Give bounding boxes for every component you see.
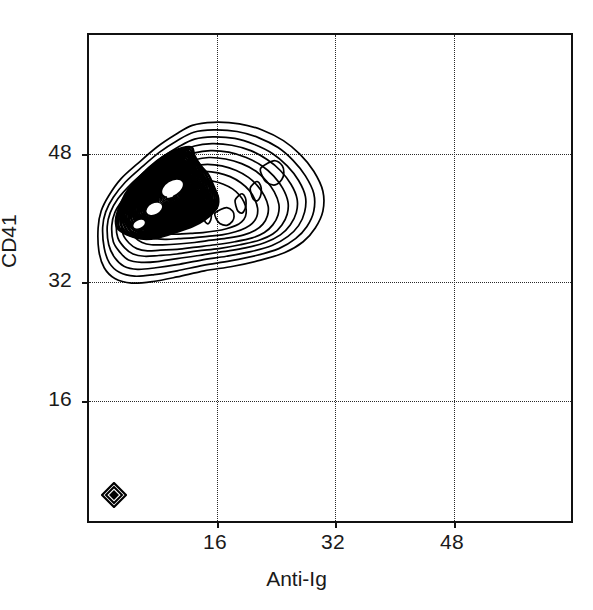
- island-teardrop-mid: [250, 181, 261, 200]
- core-ring-8: [129, 158, 209, 229]
- gridline-vertical-48: [454, 35, 455, 521]
- ticklabel-x-48: 48: [440, 531, 464, 552]
- core-ring-10: [132, 161, 205, 226]
- core-ring-32: [164, 190, 175, 200]
- core-ring-19: [144, 173, 192, 216]
- core-ring-31: [163, 189, 177, 201]
- core-ring-6: [124, 155, 209, 232]
- contour-level-5: [116, 151, 288, 257]
- island-sliver: [203, 208, 211, 224]
- core-ring-17: [142, 170, 196, 218]
- contour-level-3: [107, 137, 306, 270]
- core-ring-24: [153, 180, 187, 210]
- core-ring-25: [154, 181, 185, 209]
- core-ring-7: [127, 156, 209, 230]
- contour-interior-islands: [203, 161, 284, 226]
- core-ring-28: [158, 185, 180, 205]
- tick-x-32: [335, 521, 337, 528]
- ticklabel-y-48: 48: [10, 141, 72, 162]
- figure-container: 48 32 16 16 32 48 CD41 Anti-Ig: [0, 0, 593, 610]
- ticklabel-x-32: 32: [321, 531, 345, 552]
- core-ring-11: [132, 163, 203, 226]
- core-ring-26: [155, 182, 183, 207]
- tick-x-16: [217, 521, 219, 528]
- core-ring-14: [137, 166, 199, 222]
- gridline-horizontal-32: [89, 282, 571, 283]
- core-ring-33: [166, 191, 174, 198]
- core-ring-23: [151, 178, 188, 211]
- core-ring-16: [141, 169, 197, 219]
- core-ring-27: [157, 183, 182, 206]
- core-ring-2: [120, 150, 216, 236]
- gridline-horizontal-48: [89, 154, 571, 155]
- contour-saturated-core: [116, 147, 218, 239]
- ticklabel-x-16: 16: [203, 531, 227, 552]
- core-ring-12: [134, 164, 202, 225]
- core-ring-3: [121, 152, 214, 235]
- gridline-vertical-32: [335, 35, 336, 521]
- core-ring-4: [122, 153, 213, 234]
- core-ring-0: [116, 147, 218, 239]
- contour-level-2: [103, 130, 315, 276]
- core-ring-20: [146, 174, 191, 215]
- contour-level-7: [128, 164, 268, 245]
- core-gap-upper: [159, 176, 186, 200]
- ticklabel-y-16: 16: [10, 388, 72, 409]
- core-ring-15: [139, 167, 199, 220]
- tick-y-48: [82, 154, 89, 156]
- tick-y-16: [82, 401, 89, 403]
- diamond-marker: [101, 482, 127, 508]
- axis-label-y: CD41: [0, 214, 19, 268]
- core-ring-18: [143, 172, 194, 217]
- gridline-vertical-16: [217, 35, 218, 521]
- core-ring-1: [118, 148, 218, 237]
- island-diamond-upper: [260, 161, 284, 185]
- ticklabel-y-32: 32: [10, 269, 72, 290]
- contour-level-4: [112, 144, 298, 263]
- contour-level-1: [98, 122, 324, 283]
- core-ring-30: [162, 187, 179, 202]
- core-gap-lower: [132, 218, 146, 230]
- contour-plot: [89, 35, 575, 525]
- contour-level-9: [144, 180, 247, 234]
- core-ring-13: [135, 165, 200, 224]
- tick-y-32: [82, 282, 89, 284]
- island-teardrop-lower: [235, 194, 246, 213]
- core-ring-21: [148, 175, 190, 213]
- core-ring-29: [160, 186, 180, 203]
- plot-area: [87, 33, 573, 523]
- tick-x-48: [454, 521, 456, 528]
- core-ring-22: [150, 177, 190, 212]
- contour-outer-levels: [98, 122, 324, 283]
- core-gap-mid: [144, 200, 164, 217]
- core-ring-9: [131, 159, 207, 227]
- core-ring-5: [123, 154, 211, 233]
- axis-label-x: Anti-Ig: [0, 568, 593, 589]
- contour-level-6: [122, 157, 280, 250]
- gridline-horizontal-16: [89, 401, 571, 402]
- contour-level-8: [135, 171, 257, 239]
